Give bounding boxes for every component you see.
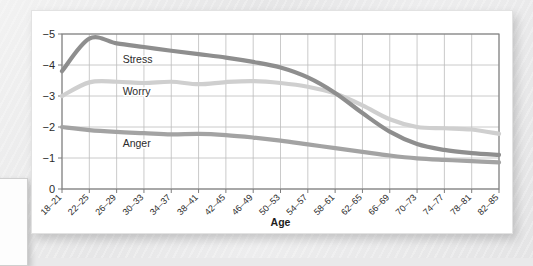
series-label-worry: WorryWorry — [123, 85, 152, 97]
y-tick-label: 0 — [49, 183, 55, 195]
x-axis-title: Age — [271, 216, 291, 228]
series-label-stress: StressStress — [123, 53, 153, 65]
x-tick-label: 74–77 — [421, 192, 446, 217]
line-chart: −5−4−3−2−1018–2122–2526–2930–3334–3738–4… — [32, 11, 512, 233]
x-tick-label: 50–53 — [257, 192, 282, 217]
x-tick-label: 22–25 — [66, 192, 91, 217]
x-tick-label: 58–61 — [312, 192, 337, 217]
x-tick-label: 62–65 — [339, 192, 364, 217]
series-label-anger: AngerAnger — [123, 137, 152, 149]
y-tick-label: −1 — [42, 152, 55, 164]
x-tick-label: 70–73 — [394, 192, 419, 217]
series-label-text: Worry — [123, 85, 152, 97]
x-tick-label: 42–45 — [203, 192, 228, 217]
x-tick-label: 66–69 — [366, 192, 391, 217]
x-tick-label: 46–49 — [230, 192, 255, 217]
y-tick-label: −2 — [42, 121, 55, 133]
series-label-text: Stress — [123, 53, 153, 65]
x-tick-label: 34–37 — [148, 192, 173, 217]
x-tick-label: 54–57 — [284, 192, 309, 217]
x-tick-label: 30–33 — [121, 192, 146, 217]
x-tick-label: 38–41 — [175, 192, 200, 217]
x-tick-label: 18–21 — [39, 192, 64, 217]
adjacent-page-card — [0, 178, 28, 266]
x-tick-label: 26–29 — [93, 192, 118, 217]
chart-svg: −5−4−3−2−1018–2122–2526–2930–3334–3738–4… — [32, 11, 512, 233]
x-tick-label: 78–81 — [448, 192, 473, 217]
figure-card: −5−4−3−2−1018–2122–2526–2930–3334–3738–4… — [31, 10, 513, 234]
x-tick-label: 82–85 — [476, 192, 501, 217]
y-tick-label: −3 — [42, 90, 55, 102]
y-tick-label: −4 — [42, 59, 55, 71]
y-tick-label: −5 — [42, 28, 55, 40]
series-label-text: Anger — [123, 137, 152, 149]
